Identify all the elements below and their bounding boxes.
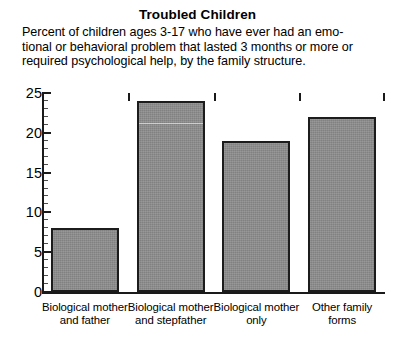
y-axis-minor-tick [44,188,48,189]
x-axis-category-line-2: and stepfather [128,314,214,327]
x-axis-category-line-2: forms [299,314,385,327]
chart-figure: Troubled Children Percent of children ag… [0,0,395,339]
y-axis-label-20: 20 [16,126,42,141]
x-axis-category-3: Biological motheronly [214,301,300,328]
y-axis-tick-15 [44,172,51,174]
y-axis-minor-tick [44,108,48,109]
y-axis-tick-10 [44,211,51,213]
chart-subtitle-line-3: required psychological help, by the fami… [22,54,374,69]
y-axis-line [42,92,44,293]
y-axis-minor-tick [44,180,48,181]
y-axis-minor-tick [44,156,48,157]
y-axis-label-0: 0 [16,285,42,300]
y-axis-minor-tick [44,235,48,236]
x-axis-tick-1 [128,93,130,101]
x-axis-category-1: Biological motherand father [42,301,128,328]
bar-3 [222,141,290,292]
chart-subtitle-line-1: Percent of children ages 3-17 who have e… [22,25,374,40]
y-axis-minor-tick [44,100,48,101]
x-axis-tick-0 [42,93,44,101]
y-axis-label-25: 25 [16,86,42,101]
y-axis-tick-20 [44,132,51,134]
x-axis-category-line-1: Biological mother [128,301,214,314]
y-axis-minor-tick [44,259,48,260]
y-axis-label-5: 5 [16,245,42,260]
y-axis-minor-tick [44,195,48,196]
scanline-artifact [139,123,203,124]
y-axis-minor-tick [44,227,48,228]
y-axis-tick-25 [44,92,51,94]
y-axis-minor-tick [44,124,48,125]
x-axis-tick-4 [383,93,385,101]
y-axis-minor-tick [44,243,48,244]
x-axis-category-line-2: and father [42,314,128,327]
x-axis-category-2: Biological motherand stepfather [128,301,214,328]
chart-title: Troubled Children [0,7,395,22]
y-axis-minor-tick [44,219,48,220]
y-axis-minor-tick [44,267,48,268]
y-axis-minor-tick [44,203,48,204]
y-axis-minor-tick [44,283,48,284]
y-axis-minor-tick [44,140,48,141]
x-axis-category-line-2: only [214,314,300,327]
x-axis-category-line-1: Other family [299,301,385,314]
plot-area [42,93,385,292]
bar-2 [137,101,205,292]
x-axis-category-line-1: Biological mother [214,301,300,314]
bar-4 [308,117,376,292]
x-axis-tick-3 [299,93,301,101]
chart-subtitle: Percent of children ages 3-17 who have e… [22,25,374,69]
y-axis-minor-tick [44,116,48,117]
y-axis-label-10: 10 [16,205,42,220]
x-axis-tick-2 [214,93,216,101]
y-axis-minor-tick [44,275,48,276]
y-axis-minor-tick [44,148,48,149]
chart-subtitle-line-2: tional or behavioral problem that lasted… [22,40,374,55]
x-axis-category-line-1: Biological mother [42,301,128,314]
x-axis-line [42,292,385,294]
x-axis-category-4: Other familyforms [299,301,385,328]
bar-1 [51,228,119,292]
y-axis-minor-tick [44,164,48,165]
y-axis-label-15: 15 [16,166,42,181]
